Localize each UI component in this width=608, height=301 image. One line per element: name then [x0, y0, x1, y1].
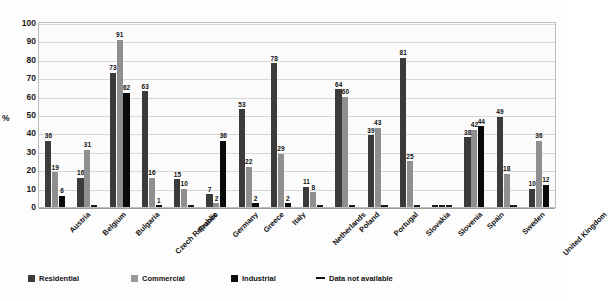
bar-group: 103612: [523, 23, 555, 207]
bar-value-label: 63: [140, 83, 151, 90]
bar-value-label: 22: [243, 158, 254, 165]
bar-industrial: [381, 205, 387, 207]
bar-residential: [271, 63, 277, 207]
bar-industrial: [510, 205, 516, 207]
y-tick-label: 100: [2, 19, 36, 27]
bar-value-label: 1: [153, 197, 164, 204]
bar-group: 7236: [200, 23, 232, 207]
bar-commercial: [181, 189, 187, 207]
bar-value-label: 2: [250, 195, 261, 202]
x-tick-label: Slovenia: [456, 210, 484, 238]
bar-value-label: 25: [404, 153, 415, 160]
bar-group: 53222: [233, 23, 265, 207]
legend-swatch-icon: [131, 275, 138, 282]
bar-value-label: 10: [179, 180, 190, 187]
y-tick-label: 10: [2, 185, 36, 193]
bar-value-label: 8: [308, 184, 319, 191]
y-tick-label: 60: [2, 93, 36, 101]
bar-group: 739162: [104, 23, 136, 207]
bar-industrial: [285, 203, 291, 207]
x-tick-label: Bulgaria: [133, 210, 161, 238]
bar-value-label: 6: [56, 187, 67, 194]
bar-group: 36196: [39, 23, 71, 207]
bar-commercial: [407, 161, 413, 207]
legend-label: Data not available: [329, 274, 393, 283]
bar-value-label: 15: [172, 171, 183, 178]
bar-residential: [45, 141, 51, 207]
bar-residential: [142, 91, 148, 207]
x-tick-label: France: [196, 210, 220, 234]
bar-group: 384244: [458, 23, 490, 207]
bar-group: 63161: [136, 23, 168, 207]
x-tick-label: Greece: [261, 210, 285, 234]
bar-value-label: 18: [501, 165, 512, 172]
bar-value-label: 36: [533, 132, 544, 139]
y-tick-label: 90: [2, 37, 36, 45]
bar-value-label: 60: [340, 88, 351, 95]
bar-industrial: [349, 205, 355, 207]
bar-value-label: 19: [50, 164, 61, 171]
bar-industrial: [317, 205, 323, 207]
bar-industrial: [252, 203, 258, 207]
bar-commercial: [439, 205, 445, 207]
bar-value-label: 78: [269, 55, 280, 62]
bar-group: 3943: [362, 23, 394, 207]
bar-residential: [464, 137, 470, 207]
bar-residential: [497, 117, 503, 207]
bar-value-label: 64: [333, 81, 344, 88]
bar-value-label: 12: [540, 176, 551, 183]
legend-label: Commercial: [142, 274, 185, 283]
bar-value-label: 29: [275, 145, 286, 152]
legend-item: Industrial: [231, 274, 276, 283]
bar-value-label: 36: [218, 132, 229, 139]
bar-commercial: [375, 128, 381, 207]
bar-residential: [335, 89, 341, 207]
bar-industrial: [478, 126, 484, 207]
bar-value-label: 7: [204, 186, 215, 193]
bar-industrial: [543, 185, 549, 207]
y-tick-label: 20: [2, 166, 36, 174]
x-tick-label: Germany: [231, 210, 260, 239]
bar-group: 118: [297, 23, 329, 207]
y-tick-label: 80: [2, 56, 36, 64]
bar-value-label: 43: [372, 119, 383, 126]
bar-industrial: [414, 205, 420, 207]
bar-value-label: 36: [43, 132, 54, 139]
x-tick-label: Spain: [485, 210, 506, 231]
bar-group: 4918: [491, 23, 523, 207]
bars-layer: 3619616317391626316115107236532227829211…: [39, 23, 555, 207]
x-tick-label: Austria: [68, 210, 93, 235]
x-tick-label: Portugal: [392, 210, 420, 238]
y-axis-title: %: [2, 113, 10, 123]
bar-group: 6460: [329, 23, 361, 207]
y-tick-label: 40: [2, 129, 36, 137]
bar-value-label: 16: [146, 169, 157, 176]
bar-group: 1510: [168, 23, 200, 207]
bar-residential: [110, 73, 116, 207]
bar-residential: [400, 58, 406, 207]
y-tick-label: 30: [2, 148, 36, 156]
legend-label: Residential: [39, 274, 79, 283]
bar-commercial: [310, 192, 316, 207]
legend-item: Commercial: [131, 274, 185, 283]
bar-value-label: 31: [82, 141, 93, 148]
x-tick-label: Belgium: [101, 210, 128, 237]
bar-group: 8125: [394, 23, 426, 207]
bar-residential: [529, 189, 535, 207]
bar-value-label: 2: [282, 195, 293, 202]
bar-industrial: [59, 196, 65, 207]
x-tick-label: Slovakia: [424, 210, 452, 238]
bar-commercial: [84, 150, 90, 207]
bar-commercial: [342, 97, 348, 207]
bar-industrial: [188, 205, 194, 207]
x-tick-label: United Kingdom: [561, 210, 608, 257]
bar-value-label: 91: [114, 31, 125, 38]
bar-industrial: [123, 93, 129, 207]
bar-group: 1631: [71, 23, 103, 207]
bar-commercial: [471, 130, 477, 207]
bar-group: [426, 23, 458, 207]
bar-commercial: [504, 174, 510, 207]
bar-industrial: [446, 205, 452, 207]
x-axis-labels: AustriaBelgiumBulgariaCzech RepublicFran…: [0, 208, 568, 266]
